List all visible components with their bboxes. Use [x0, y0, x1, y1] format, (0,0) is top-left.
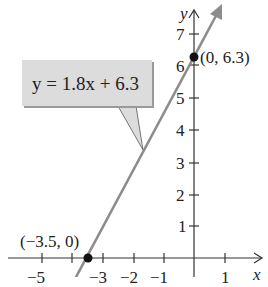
x-tick-label-minus5: −5: [27, 269, 45, 286]
x-tick-label-minus2: −2: [120, 269, 138, 286]
x-axis-label: x: [253, 266, 261, 283]
point-y-intercept: [190, 53, 199, 62]
x-tick-label-minus1: −1: [150, 269, 168, 286]
y-tick-label-7: 7: [176, 26, 185, 43]
x-tick-label-1: 1: [221, 269, 230, 286]
point-label-x-intercept: (−3.5, 0): [20, 233, 79, 250]
y-tick-label-6: 6: [176, 58, 185, 75]
equation-callout: y = 1.8x + 6.3: [22, 60, 152, 106]
point-x-intercept: [84, 254, 93, 263]
y-tick-label-1: 1: [178, 218, 187, 235]
y-tick-label-2: 2: [176, 187, 185, 204]
y-tick-label-4: 4: [176, 122, 185, 139]
y-axis-label: y: [180, 5, 188, 22]
y-tick-label-3: 3: [176, 155, 185, 172]
point-label-y-intercept: (0, 6.3): [200, 49, 250, 66]
equation-label: y = 1.8x + 6.3: [32, 73, 139, 95]
x-tick-label-minus3: −3: [89, 269, 107, 286]
function-line: [76, 12, 218, 277]
callout-pointer: [118, 106, 143, 150]
y-tick-label-5: 5: [176, 90, 185, 107]
